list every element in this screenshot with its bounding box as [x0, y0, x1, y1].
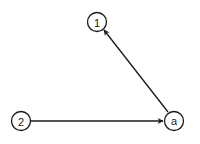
- node-a: a: [165, 112, 184, 131]
- node-a-label: a: [171, 115, 178, 127]
- edge-a-to-1: [104, 30, 168, 112]
- node-1: 1: [88, 13, 107, 32]
- node-1-label: 1: [94, 17, 100, 29]
- node-2: 2: [12, 112, 31, 131]
- graph-diagram: 1 2 a: [0, 0, 200, 144]
- node-2-label: 2: [18, 116, 24, 128]
